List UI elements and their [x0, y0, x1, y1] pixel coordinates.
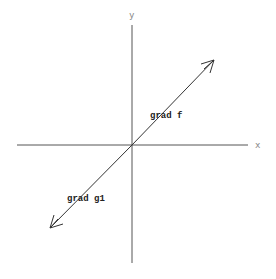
grad-g1-vector — [50, 145, 132, 228]
y-axis-label: y — [129, 10, 135, 20]
grad-f-vector — [132, 60, 214, 145]
grad-g1-label: grad g1 — [67, 194, 105, 204]
grad-f-label: grad f — [150, 111, 182, 121]
x-axis-label: x — [255, 140, 261, 150]
gradient-diagram: y x grad f grad g1 — [0, 0, 276, 279]
